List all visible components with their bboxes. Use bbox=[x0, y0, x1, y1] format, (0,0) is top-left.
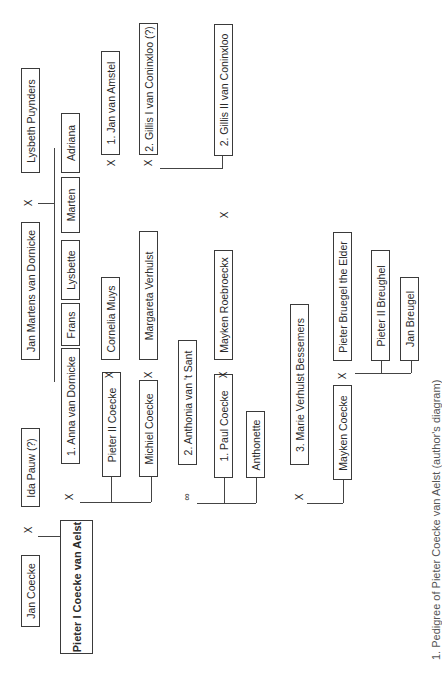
marriage-mark: X bbox=[338, 370, 348, 382]
connector bbox=[111, 477, 112, 502]
person-anna-van-dornicke: 1. Anna van Dornicke bbox=[61, 348, 80, 464]
person-jan-van-amstel: 1. Jan van Amstel bbox=[101, 51, 120, 155]
marriage-mark: X bbox=[105, 369, 115, 381]
connector bbox=[222, 156, 223, 168]
connector bbox=[355, 373, 411, 374]
person-jan-coecke: Jan Coecke bbox=[21, 555, 40, 627]
marriage-mark: X bbox=[107, 157, 117, 169]
person-michiel-coecke: Michiel Coecke bbox=[139, 380, 158, 477]
connector bbox=[197, 503, 256, 504]
connector bbox=[38, 536, 60, 537]
person-ida-pauw: Ida Pauw (?) bbox=[21, 428, 40, 507]
person-anthonette: Anthonette bbox=[246, 411, 265, 478]
marriage-mark: X bbox=[144, 157, 154, 169]
marriage-mark: X bbox=[295, 491, 305, 503]
sibling-line bbox=[54, 148, 55, 382]
person-adriana: Adriana bbox=[61, 113, 80, 173]
person-marten: Marten bbox=[61, 177, 80, 233]
person-lysbeth-puynders: Lysbeth Puynders bbox=[21, 68, 40, 173]
person-frans: Frans bbox=[61, 303, 80, 346]
person-anthonia-van-t-sant: 2. Anthonia van 't Sant bbox=[178, 340, 197, 465]
person-pieter-ii-coecke: Pieter II Coecke bbox=[102, 372, 121, 477]
person-gillis-i-van-coninxloo: 2. Gillis I van Coninxloo (?) bbox=[139, 23, 158, 155]
person-jan-breugel: Jan Breugel bbox=[400, 277, 419, 361]
person-lysbette: Lysbette bbox=[61, 240, 80, 300]
person-pieter-bruegel-the-elder: Pieter Bruegel the Elder bbox=[333, 232, 352, 361]
connector bbox=[224, 478, 225, 503]
marriage-mark: X bbox=[220, 209, 230, 221]
marriage-mark: X bbox=[24, 197, 34, 209]
person-mayken-roebroeckx: Mayken Roebroeckx bbox=[214, 250, 233, 360]
connector bbox=[256, 478, 257, 503]
figure-caption: 1. Pedigree of Pieter Coecke van Aelst (… bbox=[430, 380, 442, 660]
person-jan-martens-van-dornicke: Jan Martens van Dornicke bbox=[21, 222, 40, 360]
marriage-mark: X bbox=[65, 491, 75, 503]
connector bbox=[80, 502, 151, 503]
person-margareta-verhulst: Margareta Verhulst bbox=[139, 231, 158, 360]
connector bbox=[411, 361, 412, 373]
connector bbox=[307, 503, 343, 504]
person-marie-verhulst-bessemers: 3. Marie Verhulst Bessemers bbox=[290, 304, 309, 465]
person-pieter-i-coecke-van-aelst: Pieter I Coecke van Aelst bbox=[60, 520, 93, 654]
connector bbox=[160, 168, 223, 169]
marriage-mark: X bbox=[144, 369, 154, 381]
connector bbox=[38, 203, 54, 204]
person-paul-coecke: 1. Paul Coecke bbox=[214, 374, 233, 478]
person-mayken-coecke: Mayken Coecke bbox=[333, 385, 352, 480]
marriage-mark: X bbox=[24, 524, 34, 536]
marriage-mark: X bbox=[219, 369, 229, 381]
connector bbox=[151, 477, 152, 502]
connector bbox=[343, 479, 344, 503]
person-pieter-ii-breughel: Pieter II Breughel bbox=[371, 250, 390, 361]
union-mark: ∞ bbox=[182, 491, 192, 503]
connector bbox=[381, 361, 382, 373]
person-cornelia-muys: Cornelia Muys bbox=[101, 277, 120, 360]
person-gillis-ii-van-coninxloo: 2. Gillis II van Coninxloo bbox=[214, 24, 233, 156]
